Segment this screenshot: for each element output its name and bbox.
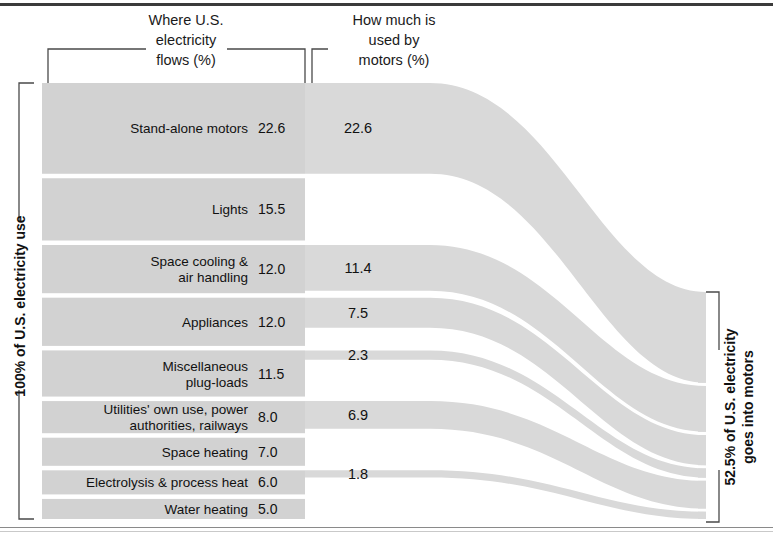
category-label: authorities, railways	[129, 418, 248, 433]
category-flow-value: 12.0	[258, 314, 285, 330]
category-label: Utilities' own use, power	[104, 402, 249, 417]
category-flow-value: 12.0	[258, 261, 285, 277]
left-header-line-2: electricity	[156, 32, 217, 48]
category-label: Appliances	[182, 315, 248, 330]
left-axis-label: 100% of U.S. electricity use	[12, 215, 28, 397]
right-header-line-3: motors (%)	[359, 52, 430, 68]
right-axis-label-line-2: goes into motors	[740, 350, 756, 464]
motor-stack-segment	[698, 481, 706, 509]
motor-value-label: 11.4	[344, 260, 371, 276]
category-flow-value: 6.0	[258, 474, 278, 490]
category-label: plug-loads	[186, 375, 249, 390]
right-header-bracket	[312, 49, 328, 88]
motor-stack-segment	[698, 435, 706, 465]
right-axis-bracket	[706, 292, 719, 522]
motor-stack-segment	[698, 512, 706, 519]
right-axis-label-line-1: 52.5% of U.S. electricity	[722, 328, 738, 485]
category-label: Water heating	[164, 502, 248, 517]
category-label: Electrolysis & process heat	[86, 475, 248, 490]
bottom-rule-secondary	[0, 531, 773, 532]
sankey-figure: Where U.S. electricity flows (%) How muc…	[0, 0, 773, 545]
right-header-line-2: used by	[369, 32, 421, 48]
motor-stack-segment	[698, 292, 706, 383]
category-label: Stand-alone motors	[130, 121, 248, 136]
left-header-line-3: flows (%)	[156, 52, 216, 68]
motor-value-label: 22.6	[344, 120, 372, 136]
right-header-line-1: How much is	[353, 12, 436, 28]
bottom-rule	[0, 527, 773, 528]
motor-value-label: 2.3	[348, 347, 368, 363]
motor-stack-segment	[698, 386, 706, 432]
category-label: air handling	[178, 270, 248, 285]
category-flow-value: 5.0	[258, 501, 278, 517]
category-flow-value: 7.0	[258, 444, 278, 460]
right-header-title: How much is used by motors (%)	[353, 12, 436, 68]
left-header-title: Where U.S. electricity flows (%)	[149, 12, 224, 68]
category-label: Miscellaneous	[162, 359, 248, 374]
category-label: Space cooling &	[150, 254, 248, 269]
category-flow-value: 11.5	[258, 366, 284, 382]
flow-bands-group	[42, 83, 706, 519]
category-flow-value: 15.5	[258, 201, 285, 217]
motor-value-label: 7.5	[348, 305, 368, 321]
motor-stack-segment	[698, 468, 706, 477]
category-label: Lights	[212, 202, 248, 217]
motor-value-label: 6.9	[348, 407, 368, 423]
left-header-line-1: Where U.S.	[149, 12, 224, 28]
category-label: Space heating	[162, 445, 248, 460]
motor-value-label: 1.8	[348, 466, 368, 482]
category-flow-value: 22.6	[258, 120, 285, 136]
category-flow-value: 8.0	[258, 409, 278, 425]
sankey-canvas: Where U.S. electricity flows (%) How muc…	[0, 0, 773, 545]
